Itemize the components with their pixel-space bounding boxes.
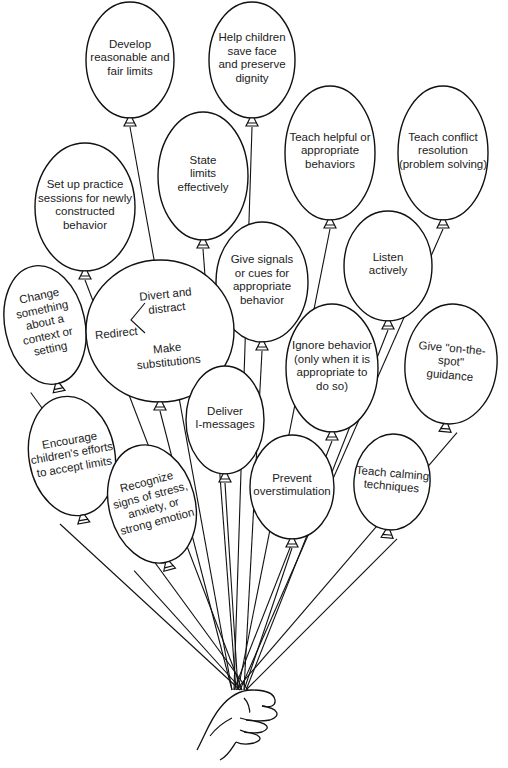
balloon-save-face (209, 2, 295, 126)
balloon-prevent-overstim (250, 435, 334, 547)
balloon-knot-icon (326, 432, 338, 440)
balloon-practice-sessions (35, 143, 135, 279)
balloon-knot-icon (79, 271, 91, 279)
balloon-knot-icon (124, 118, 136, 126)
balloon-bouquet-diagram: Develop reasonable and fair limitsHelp c… (0, 0, 508, 768)
balloon-knot-icon (219, 474, 231, 482)
balloon-deliver-i-messages (186, 366, 264, 482)
balloon-knot-icon (382, 321, 394, 329)
balloon-conflict-resolution (398, 86, 488, 228)
hand-icon (197, 690, 277, 760)
balloon-knot-icon (437, 220, 449, 228)
balloon-string (246, 539, 397, 690)
balloon-knot-icon (286, 539, 298, 547)
bouquet-illustration (0, 0, 508, 768)
balloon-string (134, 571, 242, 690)
balloons-group (0, 2, 502, 581)
balloon-ignore-behavior (286, 304, 378, 440)
balloon-knot-icon (154, 402, 166, 410)
balloon-knot-icon (197, 240, 209, 248)
balloon-string (225, 483, 238, 690)
balloon-knot-icon (246, 118, 258, 126)
divert-and-distract-label: Divert and distract (139, 285, 194, 317)
balloon-teach-helpful (285, 86, 375, 228)
balloon-knot-icon (381, 529, 394, 538)
balloon-on-the-spot (399, 300, 502, 436)
balloon-knot-icon (256, 342, 268, 350)
balloon-knot-icon (324, 220, 336, 228)
balloon-state-limits (158, 112, 248, 248)
balloon-listen (344, 211, 432, 329)
balloon-teach-calming (349, 431, 434, 541)
balloon-develop-limits (86, 2, 174, 126)
